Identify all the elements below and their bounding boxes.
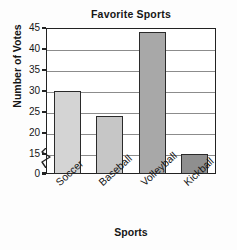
y-axis-tick: 0 [0, 169, 40, 179]
y-axis-tick-label: 25 [18, 107, 40, 117]
y-axis-tick-label: 45 [18, 23, 40, 33]
y-axis-tick-label: 40 [18, 44, 40, 54]
y-axis-tick: 25 [0, 107, 40, 117]
y-axis-tick-label: 0 [18, 169, 40, 179]
y-axis-tick-label: 15 [18, 149, 40, 159]
chart-title: Favorite Sports [46, 8, 216, 20]
y-axis-tick: 35 [0, 65, 40, 75]
y-axis-tick: 30 [0, 86, 40, 96]
y-axis-tick: 45 [0, 23, 40, 33]
bars-group [46, 28, 216, 174]
y-axis-tick: 20 [0, 128, 40, 138]
bar-chart: Favorite Sports Number of Votes Sports 0… [0, 0, 237, 250]
y-axis-tick-label: 35 [18, 65, 40, 75]
x-axis-title: Sports [46, 226, 216, 238]
y-axis-tick-label: 20 [18, 128, 40, 138]
y-axis-tick: 40 [0, 44, 40, 54]
bar-volleyball [139, 32, 166, 174]
y-axis-tick-label: 30 [18, 86, 40, 96]
y-axis-tick: 15 [0, 149, 40, 159]
